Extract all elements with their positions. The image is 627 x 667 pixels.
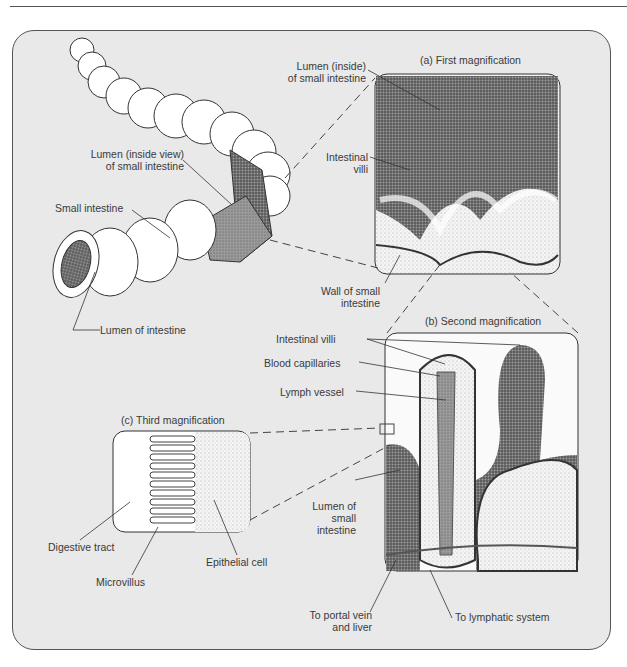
label-to-portal-vein: To portal vein and liver bbox=[290, 609, 372, 633]
panel-a-drawing bbox=[375, 74, 560, 274]
panel-c-title: (c) Third magnification bbox=[121, 414, 225, 426]
label-lumen-of-intestine: Lumen of intestine bbox=[100, 324, 186, 336]
label-epithelial-cell: Epithelial cell bbox=[206, 556, 267, 568]
panel-b-drawing bbox=[385, 333, 578, 571]
label-lumen-of-small-intestine: Lumen of small intestine bbox=[290, 500, 356, 536]
label-blood-capillaries: Blood capillaries bbox=[264, 357, 340, 369]
label-intestinal-villi-a: Intestinal villi bbox=[300, 151, 368, 175]
label-to-lymphatic-system: To lymphatic system bbox=[455, 611, 550, 623]
label-lumen-inside: Lumen (inside) of small intestine bbox=[280, 60, 366, 84]
label-wall-of-small-intestine: Wall of small intestine bbox=[300, 285, 380, 309]
label-intestinal-villi-b: Intestinal villi bbox=[276, 333, 336, 345]
panel-a-title: (a) First magnification bbox=[420, 54, 521, 66]
panel-b-title: (b) Second magnification bbox=[425, 315, 541, 327]
label-lymph-vessel: Lymph vessel bbox=[280, 386, 344, 398]
label-small-intestine: Small intestine bbox=[55, 202, 123, 214]
label-digestive-tract: Digestive tract bbox=[48, 541, 115, 553]
label-microvillus: Microvillus bbox=[96, 576, 145, 588]
panel-c-drawing bbox=[113, 431, 250, 532]
label-lumen-inside-view: Lumen (inside view) of small intestine bbox=[80, 148, 184, 172]
